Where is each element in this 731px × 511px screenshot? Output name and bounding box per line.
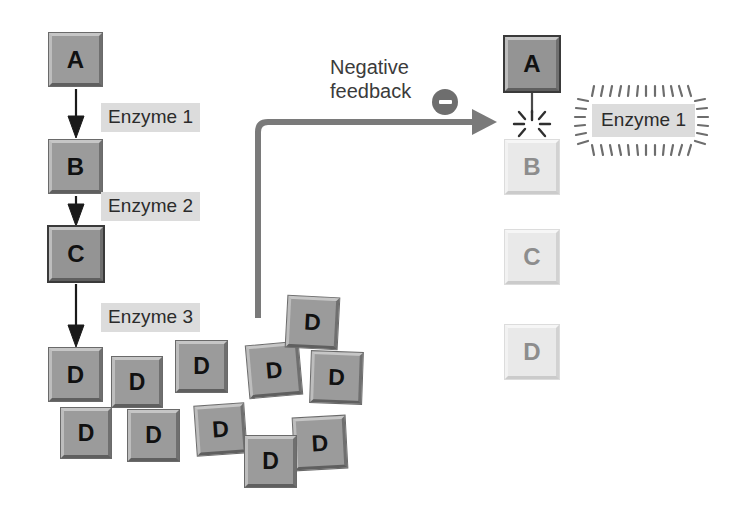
molecule-d-right: D — [505, 325, 559, 379]
enzyme-1-label-left: Enzyme 1 — [101, 103, 200, 132]
negative-feedback-arrow — [258, 109, 497, 318]
product-d-molecule: D — [176, 341, 227, 392]
negative-feedback-line-1: Negative — [330, 55, 411, 79]
enzyme-label-text: Enzyme 3 — [108, 306, 193, 327]
minus-bar — [439, 100, 452, 104]
product-d-molecule: D — [112, 357, 162, 407]
molecule-c-right: C — [505, 230, 559, 284]
molecule-a-left: A — [49, 33, 102, 86]
molecule-label: C — [67, 242, 84, 266]
molecule-label: B — [67, 155, 84, 179]
molecule-label: C — [523, 245, 540, 269]
pathway-arrow-c-to-d — [68, 284, 84, 347]
molecule-label: D — [311, 431, 329, 455]
product-d-molecule: D — [194, 403, 246, 455]
molecule-label: D — [78, 422, 95, 445]
pathway-arrow-a-to-b — [68, 89, 84, 138]
pathway-arrow-b-to-c — [68, 196, 84, 226]
product-d-molecule: D — [245, 436, 296, 487]
molecule-label: D — [145, 424, 162, 447]
molecule-d-left: D — [49, 348, 102, 401]
product-d-molecule: D — [246, 342, 302, 398]
molecule-label: D — [129, 371, 146, 394]
enzyme-2-label-left: Enzyme 2 — [101, 192, 200, 221]
product-d-molecule: D — [61, 408, 111, 458]
molecule-label: A — [67, 48, 84, 72]
enzyme-label-text: Enzyme 1 — [601, 109, 686, 130]
molecule-label: D — [211, 417, 229, 441]
molecule-label: D — [193, 355, 210, 378]
starburst-icon — [514, 111, 550, 136]
molecule-a-right: A — [505, 37, 559, 91]
product-d-molecule: D — [310, 351, 363, 404]
diagram-canvas: A B C D Enzyme 1 Enzyme 2 Enzyme 3 D D D… — [0, 0, 731, 511]
molecule-label: D — [265, 358, 284, 382]
molecule-b-left: B — [49, 140, 102, 193]
molecule-c-left: C — [49, 227, 103, 281]
molecule-label: A — [523, 52, 540, 76]
product-d-molecule: D — [286, 296, 340, 350]
enzyme-label-text: Enzyme 2 — [108, 195, 193, 216]
molecule-label: D — [262, 450, 279, 473]
molecule-label: D — [328, 366, 345, 390]
negative-feedback-line-2: feedback — [330, 79, 411, 103]
enzyme-3-label-left: Enzyme 3 — [101, 303, 200, 332]
minus-circle-icon — [432, 89, 458, 115]
molecule-label: B — [523, 155, 540, 179]
enzyme-label-text: Enzyme 1 — [108, 106, 193, 127]
molecule-b-right: B — [505, 140, 559, 194]
molecule-label: D — [523, 340, 540, 364]
enzyme-1-label-inhibited: Enzyme 1 — [592, 104, 695, 137]
molecule-label: D — [67, 363, 84, 387]
negative-feedback-label: Negative feedback — [330, 55, 411, 103]
molecule-label: D — [304, 311, 322, 335]
product-d-molecule: D — [293, 416, 348, 471]
product-d-molecule: D — [128, 410, 179, 461]
